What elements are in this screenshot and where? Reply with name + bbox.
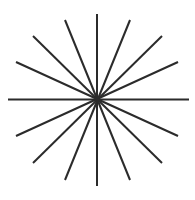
starburst-figure [0, 0, 195, 200]
starburst-canvas [0, 0, 195, 200]
